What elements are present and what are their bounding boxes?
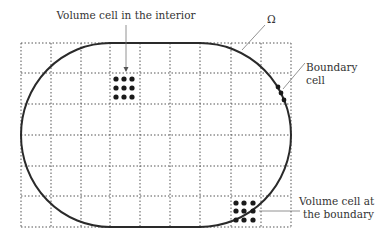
boundary-volume-cell-dots (233, 200, 255, 222)
label-boundary-cell-line1: Boundary (306, 61, 358, 73)
label-boundary-cell-line2: cell (306, 74, 325, 86)
dotted-grid (21, 43, 291, 227)
domain-boundary-curve (21, 43, 291, 227)
label-boundary-volume-cell-line2: the boundary (303, 208, 374, 220)
label-boundary-volume-cell-line1: Volume cell at (298, 195, 375, 207)
label-domain-omega: Ω (267, 13, 276, 25)
arrowhead-icon (124, 67, 129, 72)
domain-diagram: Volume cell in the interior Ω Boundary c… (0, 0, 377, 242)
interior-volume-cell-dots (113, 76, 134, 99)
label-interior-volume-cell: Volume cell in the interior (56, 9, 197, 21)
